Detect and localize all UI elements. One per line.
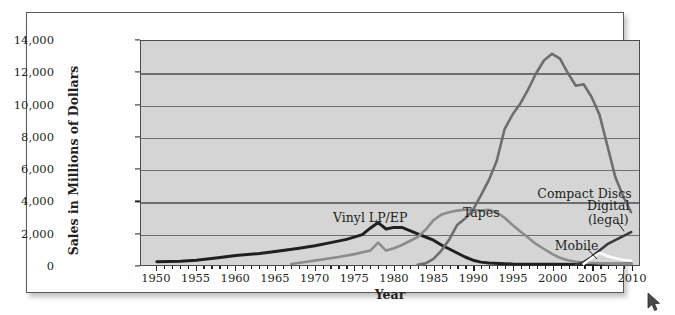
x-tick-label: 1965 (260, 271, 289, 285)
x-tick-mark-minor (600, 266, 601, 269)
y-tick-label: 2,000 (0, 227, 54, 241)
x-tick-label: 1955 (181, 271, 210, 285)
x-tick-label: 1980 (379, 271, 408, 285)
chart-figure: Sales in Millions of Dollars Year 02,000… (0, 0, 675, 315)
x-tick-mark-minor (545, 266, 546, 269)
x-tick-mark-minor (346, 266, 347, 269)
x-tick-mark-minor (465, 266, 466, 269)
x-tick-mark-minor (442, 266, 443, 269)
x-tick-mark-minor (418, 266, 419, 269)
x-tick-mark-minor (251, 266, 252, 269)
x-tick-mark-minor (307, 266, 308, 269)
x-tick-mark-minor (259, 266, 260, 269)
x-tick-mark-minor (450, 266, 451, 269)
x-tick-mark-minor (299, 266, 300, 269)
x-tick-mark-minor (188, 266, 189, 269)
x-tick-mark-minor (624, 266, 625, 269)
x-tick-mark-minor (243, 266, 244, 269)
x-tick-mark-minor (386, 266, 387, 269)
x-tick-mark-minor (537, 266, 538, 269)
series-label-line: (legal) (587, 213, 630, 227)
x-tick-mark-minor (584, 266, 585, 269)
y-tick-label: 6,000 (0, 162, 54, 176)
y-tick-label: 4,000 (0, 194, 54, 208)
x-tick-mark-minor (338, 266, 339, 269)
x-tick-mark-minor (608, 266, 609, 269)
x-tick-mark-minor (219, 266, 220, 269)
series-label-tapes: Tapes (463, 206, 500, 220)
y-tick-label: 0 (0, 259, 54, 273)
x-tick-mark-minor (164, 266, 165, 269)
x-tick-mark-minor (323, 266, 324, 269)
x-tick-mark-minor (481, 266, 482, 269)
series-label-line: Tapes (463, 206, 500, 220)
series-label-mobile: Mobile (555, 239, 599, 253)
x-tick-mark-minor (569, 266, 570, 269)
x-tick-mark-minor (410, 266, 411, 269)
x-tick-mark-minor (180, 266, 181, 269)
plot-area (140, 40, 640, 266)
series-label-vinyl-lp-ep: Vinyl LP/EP (333, 211, 407, 225)
series-label-line: Digital (587, 199, 630, 213)
x-tick-mark-minor (203, 266, 204, 269)
x-tick-mark-minor (457, 266, 458, 269)
cursor-pointer-icon (647, 292, 661, 312)
series-label-line: Vinyl LP/EP (333, 211, 407, 225)
x-tick-label: 1960 (221, 271, 250, 285)
x-tick-mark-minor (561, 266, 562, 269)
x-tick-mark-minor (172, 266, 173, 269)
series-label-digital-legal: Digital(legal) (587, 199, 630, 227)
x-tick-mark-minor (505, 266, 506, 269)
x-tick-label: 1975 (340, 271, 369, 285)
x-tick-label: 1985 (419, 271, 448, 285)
x-tick-label: 2000 (538, 271, 567, 285)
x-tick-mark-minor (577, 266, 578, 269)
x-tick-mark-minor (211, 266, 212, 269)
x-tick-label: 1995 (498, 271, 527, 285)
x-tick-mark-minor (529, 266, 530, 269)
x-tick-label: 1970 (300, 271, 329, 285)
x-tick-label: 1990 (459, 271, 488, 285)
y-tick-label: 8,000 (0, 130, 54, 144)
x-tick-mark-minor (489, 266, 490, 269)
y-tick-label: 12,000 (0, 65, 54, 79)
x-tick-mark-minor (378, 266, 379, 269)
x-tick-label: 2005 (578, 271, 607, 285)
x-tick-mark-minor (426, 266, 427, 269)
x-tick-mark-minor (497, 266, 498, 269)
x-tick-mark-minor (362, 266, 363, 269)
x-tick-mark-minor (330, 266, 331, 269)
x-tick-label: 2010 (617, 271, 646, 285)
series-label-line: Mobile (555, 239, 599, 253)
x-tick-label: 1950 (141, 271, 170, 285)
x-tick-mark-minor (616, 266, 617, 269)
x-tick-mark-minor (370, 266, 371, 269)
x-tick-mark-minor (267, 266, 268, 269)
y-tick-label: 14,000 (0, 33, 54, 47)
x-tick-mark-minor (521, 266, 522, 269)
y-tick-label: 10,000 (0, 98, 54, 112)
x-axis-title: Year (140, 287, 640, 302)
x-tick-mark-minor (227, 266, 228, 269)
series-lines (141, 41, 639, 265)
y-axis-title: Sales in Millions of Dollars (66, 46, 81, 276)
x-tick-mark-minor (291, 266, 292, 269)
chart-frame: Sales in Millions of Dollars Year 02,000… (26, 12, 624, 293)
x-tick-mark-minor (283, 266, 284, 269)
x-tick-mark-minor (402, 266, 403, 269)
